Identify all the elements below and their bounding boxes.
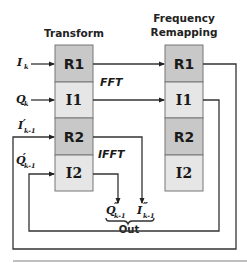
svg-text:I: I [136, 204, 143, 217]
ifft-label: IFFT [98, 148, 126, 161]
svg-text:I: I [16, 56, 23, 69]
remap-title-line2: Remapping [151, 26, 218, 38]
transform-r2-label: R2 [64, 129, 85, 145]
svg-text:k-1: k-1 [24, 162, 35, 170]
out-label: Out [119, 224, 140, 235]
ifft-arrow-i2-out [93, 174, 118, 203]
input-label-i-prime-k-1: I ′ k-1 [17, 117, 35, 135]
transform-r1-label: R1 [64, 56, 85, 72]
transform-i2-label: I2 [66, 165, 82, 181]
svg-text:k-1: k-1 [114, 212, 125, 220]
svg-text:k: k [24, 63, 29, 71]
signal-flow-diagram: Transform Frequency Remapping R1 I1 R2 I… [0, 0, 247, 263]
remap-i2-label: I2 [176, 165, 192, 181]
transform-title: Transform [44, 27, 104, 39]
output-label-i-dprime-k-1: I ″ k-1 [136, 200, 154, 220]
input-label-qk: Q k [16, 93, 29, 108]
input-label-ik: I k [16, 56, 29, 71]
transform-column: R1 I1 R2 I2 [55, 45, 93, 191]
remap-r1-label: R1 [174, 56, 195, 72]
svg-text:k: k [24, 100, 29, 108]
input-label-q-prime-k-1: Q ′ k-1 [16, 151, 35, 170]
output-label-q-dprime-k-1: Q ″ k-1 [106, 200, 125, 220]
fft-label: FFT [100, 76, 124, 89]
remap-r2-label: R2 [174, 129, 195, 145]
transform-i1-label: I1 [66, 92, 82, 108]
svg-text:k-1: k-1 [24, 127, 35, 135]
remap-column: R1 I1 R2 I2 [165, 45, 203, 191]
svg-text:k-1: k-1 [143, 212, 154, 220]
remap-i1-label: I1 [176, 92, 192, 108]
remap-title-line1: Frequency [153, 12, 215, 24]
